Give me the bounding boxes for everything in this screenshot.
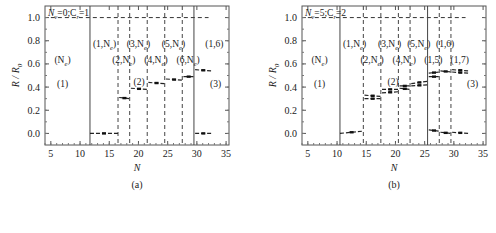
data-marker bbox=[432, 75, 436, 77]
region-label: (1,Ne​) bbox=[93, 39, 116, 51]
data-marker bbox=[458, 69, 462, 71]
y-tick-label: 0.4 bbox=[285, 82, 298, 93]
y-tick-label: 0.8 bbox=[28, 35, 41, 46]
y-axis-label-group: R / R0​ bbox=[10, 63, 24, 88]
data-marker bbox=[432, 129, 436, 131]
region-label: (5,Ne​) bbox=[162, 39, 185, 51]
data-marker bbox=[403, 85, 407, 87]
plot-svg: 51015202530350.00.20.40.60.81.0(Ne​)(1)(… bbox=[248, 0, 496, 233]
x-tick-label: 15 bbox=[361, 148, 371, 159]
y-tick-label: 1.0 bbox=[285, 12, 298, 23]
data-marker bbox=[444, 132, 448, 134]
y-tick-label: 0.6 bbox=[285, 58, 298, 69]
region-label: (3) bbox=[467, 79, 478, 90]
region-label: (1,6) bbox=[436, 39, 454, 50]
region-label: (1,5) bbox=[424, 55, 442, 66]
region-label: (1,6) bbox=[205, 39, 223, 50]
x-tick-label: 15 bbox=[104, 148, 114, 159]
panel-caption: (b) bbox=[388, 179, 400, 191]
data-marker bbox=[458, 132, 462, 134]
data-marker bbox=[417, 81, 421, 83]
data-marker bbox=[201, 69, 205, 71]
data-marker bbox=[371, 97, 375, 99]
parameter-annotation: Nv​=0;Cr​=1 bbox=[47, 8, 89, 20]
x-tick-label: 10 bbox=[332, 148, 342, 159]
region-label: (3) bbox=[210, 79, 221, 90]
y-tick-label: 0.2 bbox=[285, 105, 298, 116]
y-tick-label: 0.0 bbox=[28, 128, 41, 139]
region-label: (2) bbox=[134, 77, 145, 88]
y-tick-label: 0.6 bbox=[28, 58, 41, 69]
region-label: (1,Ne​) bbox=[343, 39, 366, 51]
x-tick-label: 5 bbox=[48, 148, 53, 159]
y-tick-label: 0.8 bbox=[285, 35, 298, 46]
x-tick-label: 30 bbox=[449, 148, 459, 159]
region-label: (3,Ne​) bbox=[127, 39, 150, 51]
data-marker bbox=[371, 95, 375, 97]
region-label: (1) bbox=[57, 79, 68, 90]
x-tick-label: 30 bbox=[192, 148, 202, 159]
parameter-annotation: Nv​=5;Cr​=2 bbox=[304, 8, 346, 20]
y-tick-label: 0.0 bbox=[285, 128, 298, 139]
data-marker bbox=[403, 88, 407, 90]
region-label: (6,Ne​) bbox=[176, 55, 199, 67]
x-axis-label: N bbox=[133, 162, 142, 173]
data-marker bbox=[122, 97, 126, 99]
y-axis-label: R / R0​ bbox=[10, 63, 24, 88]
y-tick-label: 0.4 bbox=[28, 82, 41, 93]
plot-svg: 51015202530350.00.20.40.60.81.0(Ne​)(1)(… bbox=[0, 0, 248, 233]
x-tick-label: 5 bbox=[305, 148, 310, 159]
x-tick-label: 20 bbox=[390, 148, 400, 159]
region-label: (2) bbox=[388, 77, 399, 88]
region-label: (Ne​) bbox=[54, 55, 70, 67]
region-label: (2,Ne​) bbox=[112, 55, 135, 67]
chart-panel-b: 51015202530350.00.20.40.60.81.0(Ne​)(1)(… bbox=[248, 0, 496, 233]
panel-caption: (a) bbox=[131, 179, 142, 191]
y-axis-label-group: R / R0​ bbox=[267, 63, 281, 88]
data-marker bbox=[102, 132, 106, 134]
x-tick-label: 25 bbox=[163, 148, 173, 159]
data-marker bbox=[201, 132, 205, 134]
region-label: (1,7) bbox=[451, 55, 469, 66]
region-label: (4,Ne​) bbox=[393, 55, 416, 67]
data-marker bbox=[417, 84, 421, 86]
data-marker bbox=[155, 82, 159, 84]
data-marker bbox=[137, 88, 141, 90]
y-tick-label: 1.0 bbox=[28, 12, 41, 23]
region-label: (3,Ne​) bbox=[378, 39, 401, 51]
data-marker bbox=[350, 131, 354, 133]
y-axis-label: R / R0​ bbox=[267, 63, 281, 88]
region-label: (5,Ne​) bbox=[407, 39, 430, 51]
data-marker bbox=[172, 78, 176, 80]
y-tick-label: 0.2 bbox=[28, 105, 41, 116]
data-marker bbox=[388, 88, 392, 90]
region-label: (4,Ne​) bbox=[144, 55, 167, 67]
region-label: (Ne​) bbox=[311, 55, 327, 67]
data-marker bbox=[388, 91, 392, 93]
x-tick-label: 25 bbox=[420, 148, 430, 159]
region-label: (2,Ne​) bbox=[360, 55, 383, 67]
x-tick-label: 35 bbox=[221, 148, 231, 159]
region-label: (1) bbox=[314, 79, 325, 90]
data-marker bbox=[187, 75, 191, 77]
plot-frame bbox=[45, 6, 229, 145]
x-tick-label: 20 bbox=[133, 148, 143, 159]
x-axis-label: N bbox=[390, 162, 399, 173]
x-tick-label: 35 bbox=[478, 148, 488, 159]
chart-panel-a: 51015202530350.00.20.40.60.81.0(Ne​)(1)(… bbox=[0, 0, 248, 233]
x-tick-label: 10 bbox=[75, 148, 85, 159]
data-marker bbox=[444, 70, 448, 72]
data-marker bbox=[432, 71, 436, 73]
plot-frame bbox=[302, 6, 486, 145]
data-marker bbox=[458, 71, 462, 73]
